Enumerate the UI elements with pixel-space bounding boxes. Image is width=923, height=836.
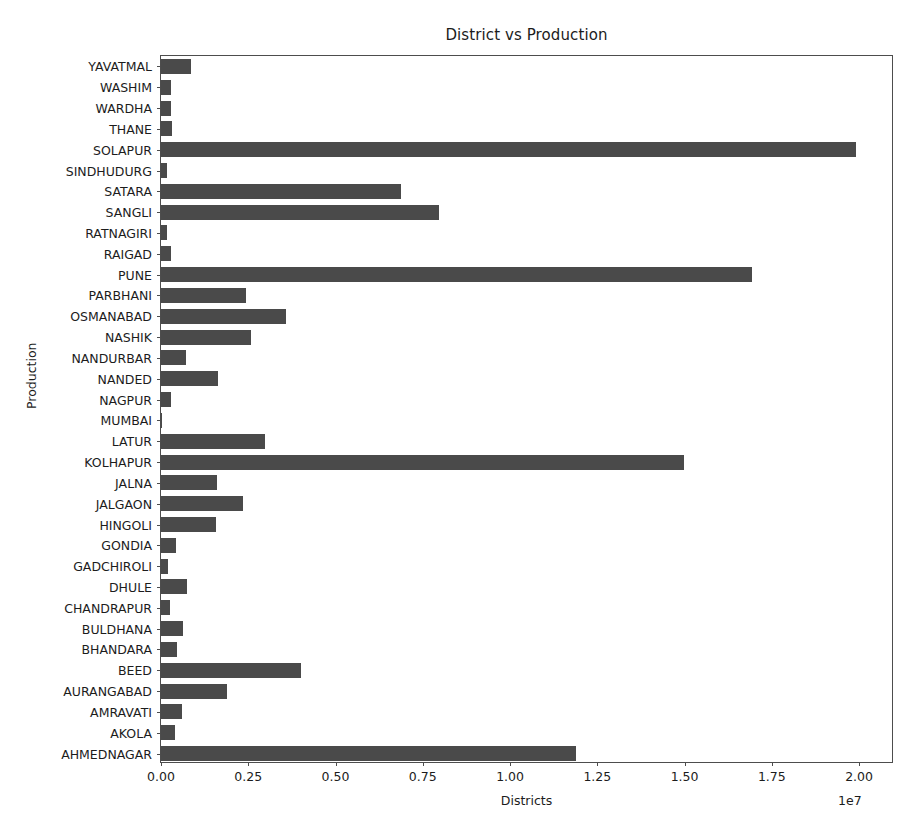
bar-row bbox=[161, 139, 892, 160]
bar-row bbox=[161, 681, 892, 702]
bar-row bbox=[161, 702, 892, 723]
y-tick-label: BULDHANA bbox=[82, 621, 152, 636]
bar-row bbox=[161, 160, 892, 181]
bar bbox=[161, 225, 167, 240]
bar bbox=[161, 121, 172, 136]
y-tick-mark bbox=[157, 233, 161, 234]
y-tick-label: OSMANABAD bbox=[70, 309, 152, 324]
y-tick-mark bbox=[157, 295, 161, 296]
bar-row bbox=[161, 577, 892, 598]
y-tick-label: YAVATMAL bbox=[88, 59, 152, 74]
bar bbox=[161, 101, 171, 116]
x-tick-mark bbox=[423, 762, 424, 766]
y-tick-mark bbox=[157, 733, 161, 734]
bar bbox=[161, 600, 170, 615]
y-tick-label: BEED bbox=[118, 663, 152, 678]
y-tick-label: SATARA bbox=[104, 184, 152, 199]
y-tick-label: PARBHANI bbox=[88, 288, 152, 303]
y-tick-mark bbox=[157, 462, 161, 463]
y-tick-mark bbox=[157, 191, 161, 192]
bar bbox=[161, 184, 401, 199]
bar bbox=[161, 434, 265, 449]
y-tick-label: NANDED bbox=[98, 371, 152, 386]
y-tick-label: JALGAON bbox=[96, 496, 152, 511]
bar-row bbox=[161, 743, 892, 764]
bar-row bbox=[161, 535, 892, 556]
y-tick-label: SOLAPUR bbox=[93, 142, 152, 157]
plot-area: YAVATMALWASHIMWARDHATHANESOLAPURSINDHUDU… bbox=[160, 55, 893, 763]
bar-row bbox=[161, 202, 892, 223]
chart-title: District vs Production bbox=[160, 26, 893, 44]
bar-row bbox=[161, 306, 892, 327]
y-tick-label: BHANDARA bbox=[81, 642, 152, 657]
y-tick-mark bbox=[157, 566, 161, 567]
x-axis-offset-text: 1e7 bbox=[838, 793, 862, 808]
bar-row bbox=[161, 431, 892, 452]
y-tick-label: SANGLI bbox=[106, 205, 152, 220]
bar-row bbox=[161, 223, 892, 244]
y-axis-label: Production bbox=[24, 342, 39, 409]
bar bbox=[161, 330, 251, 345]
bar-row bbox=[161, 368, 892, 389]
x-tick-label: 0.50 bbox=[322, 769, 350, 784]
bar-row bbox=[161, 243, 892, 264]
y-tick-mark bbox=[157, 108, 161, 109]
bar bbox=[161, 350, 186, 365]
bar-row bbox=[161, 98, 892, 119]
y-tick-label: NAGPUR bbox=[99, 392, 152, 407]
bar bbox=[161, 475, 217, 490]
bar bbox=[161, 246, 171, 261]
y-tick-label: WARDHA bbox=[96, 101, 153, 116]
y-tick-mark bbox=[157, 525, 161, 526]
x-tick-mark bbox=[510, 762, 511, 766]
y-tick-label: GONDIA bbox=[101, 538, 152, 553]
y-tick-mark bbox=[157, 608, 161, 609]
y-tick-mark bbox=[157, 379, 161, 380]
bar-row bbox=[161, 722, 892, 743]
bar bbox=[161, 309, 286, 324]
x-tick-label: 0.00 bbox=[147, 769, 175, 784]
y-tick-label: HINGOLI bbox=[99, 517, 152, 532]
bar-row bbox=[161, 264, 892, 285]
y-tick-mark bbox=[157, 691, 161, 692]
y-tick-mark bbox=[157, 358, 161, 359]
bar bbox=[161, 288, 246, 303]
chart-figure: District vs Production YAVATMALWASHIMWAR… bbox=[0, 0, 923, 836]
x-tick-label: 0.25 bbox=[234, 769, 262, 784]
bar-row bbox=[161, 472, 892, 493]
y-tick-mark bbox=[157, 420, 161, 421]
y-tick-mark bbox=[157, 483, 161, 484]
bar bbox=[161, 538, 176, 553]
x-tick-mark bbox=[248, 762, 249, 766]
bar-row bbox=[161, 327, 892, 348]
y-tick-label: JALNA bbox=[115, 475, 152, 490]
x-tick-mark bbox=[597, 762, 598, 766]
y-tick-mark bbox=[157, 212, 161, 213]
bar bbox=[161, 205, 439, 220]
y-tick-label: WASHIM bbox=[100, 80, 152, 95]
bar bbox=[161, 704, 182, 719]
y-tick-mark bbox=[157, 754, 161, 755]
bar bbox=[161, 371, 218, 386]
x-tick-label: 1.25 bbox=[583, 769, 611, 784]
bar-row bbox=[161, 452, 892, 473]
bar-row bbox=[161, 493, 892, 514]
y-tick-mark bbox=[157, 504, 161, 505]
x-tick-mark bbox=[336, 762, 337, 766]
y-tick-label: MUMBAI bbox=[100, 413, 152, 428]
bar-row bbox=[161, 181, 892, 202]
y-tick-label: SINDHUDURG bbox=[66, 163, 152, 178]
bar bbox=[161, 163, 167, 178]
bar bbox=[161, 579, 187, 594]
y-tick-mark bbox=[157, 545, 161, 546]
bar bbox=[161, 267, 752, 282]
y-tick-mark bbox=[157, 275, 161, 276]
x-tick-mark bbox=[161, 762, 162, 766]
bar bbox=[161, 725, 175, 740]
x-tick-label: 0.75 bbox=[409, 769, 437, 784]
x-tick-label: 1.50 bbox=[671, 769, 699, 784]
bar bbox=[161, 746, 576, 761]
y-tick-mark bbox=[157, 129, 161, 130]
x-tick-label: 2.00 bbox=[845, 769, 873, 784]
y-tick-label: RATNAGIRI bbox=[85, 226, 152, 241]
